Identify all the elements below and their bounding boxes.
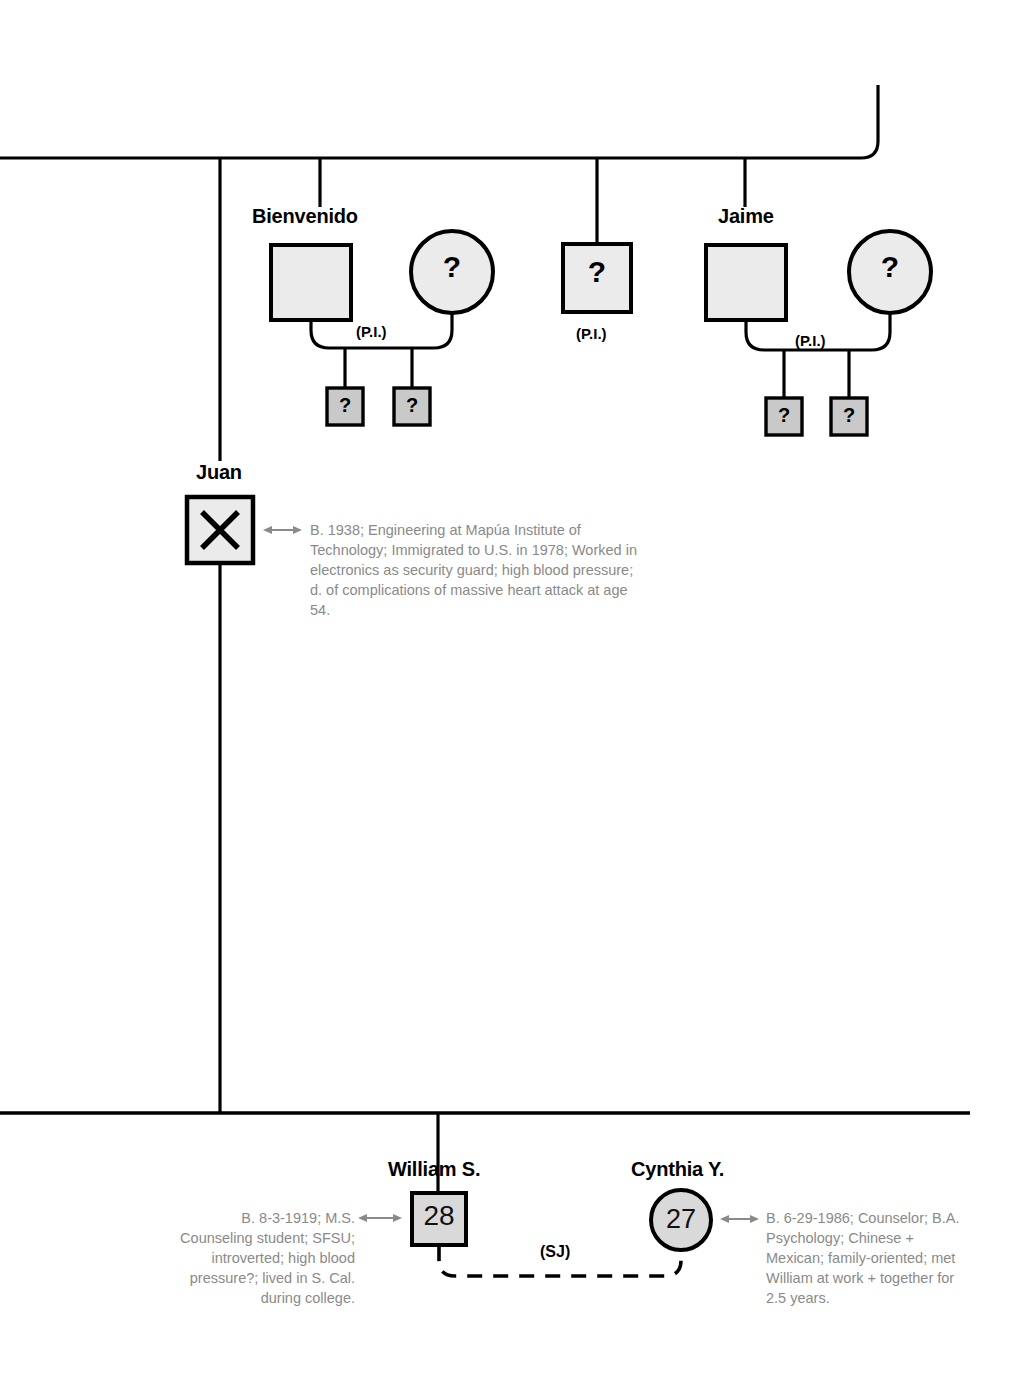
annotation-juan: B. 1938; Engineering at Mapúa Institute … [310,520,640,620]
age-william: 28 [412,1200,466,1232]
label-william: William S. [388,1158,480,1181]
genogram-canvas [0,0,1025,1384]
label-juan: Juan [196,461,242,484]
label-middle-sibling-pi: (P.I.) [576,325,607,342]
annotation-cynthia: B. 6-29-1986; Counselor; B.A. Psychology… [766,1208,966,1308]
person-jaime-square[interactable] [706,245,786,320]
label-cynthia: Cynthia Y. [631,1158,724,1181]
glyph-bienvenido-child1-question: ? [327,394,363,417]
label-bienvenido-union-pi: (P.I.) [356,323,387,340]
age-cynthia: 27 [654,1204,708,1235]
glyph-middle-sibling-question: ? [577,255,617,289]
label-william-cynthia-sj: (SJ) [540,1243,570,1261]
glyph-jaime-child2-question: ? [831,404,867,427]
glyph-jaime-child1-question: ? [766,404,802,427]
glyph-bienvenido-child2-question: ? [394,394,430,417]
person-bienvenido-square[interactable] [271,245,351,320]
label-jaime-union-pi: (P.I.) [795,332,826,349]
label-bienvenido: Bienvenido [252,205,358,228]
cynthia-annotation-connector [720,1215,759,1223]
annotation-william: B. 8-3-1919; M.S. Counseling student; SF… [170,1208,355,1308]
glyph-jaime-spouse-question: ? [870,250,910,284]
juan-annotation-connector [263,526,302,534]
label-jaime: Jaime [718,205,774,228]
top-sibling-bus [0,85,878,158]
glyph-bienvenido-spouse-question: ? [432,250,472,284]
william-annotation-connector [358,1214,402,1222]
